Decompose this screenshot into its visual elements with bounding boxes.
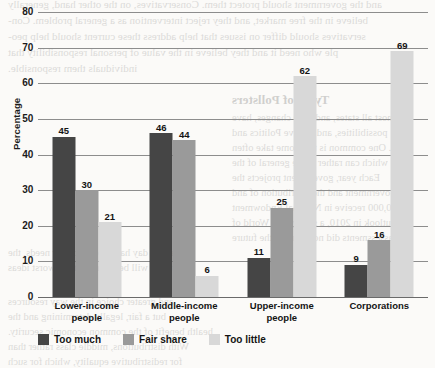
bar-slot: 25 (270, 12, 293, 297)
legend-swatch-icon (209, 334, 220, 345)
legend-label: Too much (54, 335, 101, 345)
bar-group: 91669 (331, 12, 429, 297)
legend-label: Too little (225, 335, 266, 345)
legend-item[interactable]: Too little (209, 334, 266, 345)
bar-group: 46446 (136, 12, 234, 297)
bar-groups: 4530214644611256291669 (38, 12, 428, 297)
bar-chart: Percentage 01020304050607080 45302146446… (0, 0, 435, 368)
bar-cluster: 91669 (345, 12, 414, 297)
bar[interactable]: 6 (196, 276, 219, 297)
bar[interactable]: 21 (98, 222, 121, 297)
chart-legend: Too muchFair shareToo little (38, 334, 288, 345)
bar-value-label: 62 (299, 66, 310, 76)
category-label-line: Upper-income (233, 300, 331, 312)
bar[interactable]: 62 (293, 76, 316, 297)
bar[interactable]: 25 (270, 208, 293, 297)
y-axis-tick-label: 80 (22, 7, 33, 17)
legend-swatch-icon (38, 334, 49, 345)
bar[interactable]: 46 (150, 133, 173, 297)
bar-cluster: 112562 (247, 12, 316, 297)
bar-slot: 30 (75, 12, 98, 297)
bar-slot: 16 (368, 12, 391, 297)
bar-group: 112562 (233, 12, 331, 297)
y-axis-tick-label: 60 (22, 78, 33, 88)
bar-value-label: 21 (104, 212, 115, 222)
category-label-line: Lower-income (38, 300, 136, 312)
y-axis-tick-label: 30 (22, 185, 33, 195)
bar-slot: 11 (247, 12, 270, 297)
y-axis-tick-label: 20 (22, 221, 33, 231)
y-axis-tick-label: 50 (22, 114, 33, 124)
bar-value-label: 9 (354, 254, 359, 264)
bar[interactable]: 11 (247, 258, 270, 297)
category-label-line: Corporations (331, 300, 429, 312)
bar[interactable]: 9 (345, 265, 368, 297)
bar-value-label: 46 (156, 123, 167, 133)
bar-slot: 6 (196, 12, 219, 297)
x-axis-category-label: Upper-incomepeople (233, 300, 331, 323)
bar[interactable]: 44 (173, 140, 196, 297)
y-axis-tick-label: 40 (22, 150, 33, 160)
bar[interactable]: 30 (75, 190, 98, 297)
bar-group: 453021 (38, 12, 136, 297)
bar-value-label: 11 (254, 247, 264, 257)
y-axis-tick-label: 10 (22, 256, 33, 266)
bar[interactable]: 16 (368, 240, 391, 297)
bar-value-label: 45 (58, 126, 69, 136)
category-label-line: Middle-income (136, 300, 234, 312)
category-label-line: people (233, 312, 331, 324)
legend-label: Fair share (139, 335, 187, 345)
y-axis-tick-label: 0 (28, 292, 33, 302)
bar[interactable]: 45 (52, 137, 75, 297)
y-axis-label: Percentage (11, 98, 22, 150)
y-axis-tick-label: 70 (22, 43, 33, 53)
bar-slot: 45 (52, 12, 75, 297)
bar-value-label: 69 (397, 41, 408, 51)
legend-item[interactable]: Too much (38, 334, 101, 345)
bar-slot: 9 (345, 12, 368, 297)
plot-area: 01020304050607080 4530214644611256291669 (38, 12, 428, 297)
bar-cluster: 46446 (150, 12, 219, 297)
bar-value-label: 44 (179, 130, 190, 140)
bar-value-label: 25 (276, 197, 287, 207)
bar-slot: 46 (150, 12, 173, 297)
bar-cluster: 453021 (52, 12, 121, 297)
bar-value-label: 30 (81, 180, 92, 190)
bar-value-label: 6 (205, 265, 210, 275)
bar-slot: 69 (391, 12, 414, 297)
scanned-page: and the government should protect them. … (0, 0, 435, 368)
bar-slot: 44 (173, 12, 196, 297)
x-axis-categories: Lower-incomepeopleMiddle-incomepeopleUpp… (38, 300, 428, 323)
bar-value-label: 16 (374, 230, 385, 240)
category-label-line: people (136, 312, 234, 324)
x-axis-category-label: Middle-incomepeople (136, 300, 234, 323)
legend-item[interactable]: Fair share (123, 334, 187, 345)
bar-slot: 21 (98, 12, 121, 297)
x-axis-category-label: Corporations (331, 300, 429, 323)
x-axis-category-label: Lower-incomepeople (38, 300, 136, 323)
bar[interactable]: 69 (391, 51, 414, 297)
category-label-line: people (38, 312, 136, 324)
legend-swatch-icon (123, 334, 134, 345)
bar-slot: 62 (293, 12, 316, 297)
x-axis-line: 0 (38, 297, 428, 298)
